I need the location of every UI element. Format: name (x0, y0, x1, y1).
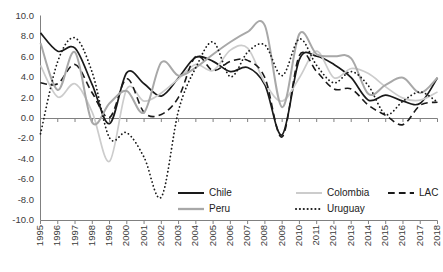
line-chart: -10.0-8.0-6.0-4.0-2.00.02.04.06.08.010.0… (0, 0, 443, 272)
legend-label-chile: Chile (209, 187, 232, 198)
legend-label-lac: LAC (419, 187, 438, 198)
legend-label-uruguay: Uruguay (327, 203, 365, 214)
series-line-lac (41, 52, 438, 137)
legend-label-colombia: Colombia (327, 187, 369, 198)
plot-area (0, 0, 443, 272)
legend-label-peru: Peru (209, 203, 230, 214)
data-series-group (41, 21, 438, 198)
